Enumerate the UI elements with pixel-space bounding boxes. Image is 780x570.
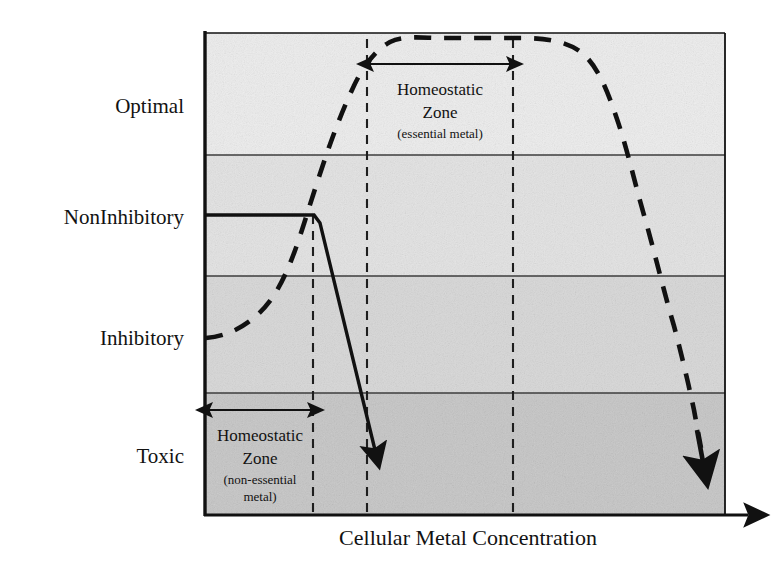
annotation-essential-line1: Homeostatic bbox=[397, 80, 483, 99]
annotation-nonessential-line4: metal) bbox=[243, 489, 276, 504]
x-axis-title: Cellular Metal Concentration bbox=[339, 525, 597, 550]
annotation-essential-line2: Zone bbox=[423, 103, 458, 122]
annotation-nonessential-line1: Homeostatic bbox=[217, 426, 303, 445]
y-axis-labels: Optimal NonInhibitory Inhibitory Toxic bbox=[64, 94, 185, 468]
y-label-inhibitory: Inhibitory bbox=[100, 326, 184, 350]
annotation-essential-line3: (essential metal) bbox=[397, 126, 483, 141]
y-label-noninhibitory: NonInhibitory bbox=[64, 205, 185, 229]
figure-container: Homeostatic Zone (essential metal) Homeo… bbox=[0, 0, 780, 570]
band-toxic bbox=[204, 393, 725, 515]
annotation-nonessential-line2: Zone bbox=[243, 449, 278, 468]
y-label-optimal: Optimal bbox=[115, 94, 184, 118]
metal-homeostasis-diagram: Homeostatic Zone (essential metal) Homeo… bbox=[0, 0, 780, 570]
annotation-nonessential-line3: (non-essential bbox=[224, 472, 297, 487]
y-label-toxic: Toxic bbox=[136, 444, 184, 468]
band-inhibitory bbox=[204, 276, 725, 393]
